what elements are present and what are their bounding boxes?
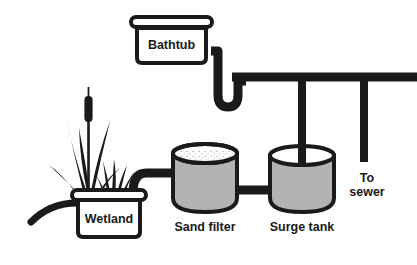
sand-filter-icon <box>173 144 237 212</box>
cattail-plant-icon <box>49 87 120 193</box>
bathtub-label: Bathtub <box>148 38 196 52</box>
sewer-label-line2: sewer <box>349 185 385 199</box>
surge-tank-icon <box>270 146 334 212</box>
surge-tank-label: Surge tank <box>270 220 335 234</box>
p-trap-pipe <box>211 51 246 107</box>
sand-filter-label: Sand filter <box>174 220 235 234</box>
wetland-outlet-pipe <box>31 203 77 222</box>
wetland-label: Wetland <box>85 212 133 226</box>
sewer-label-line1: To <box>360 171 375 185</box>
diagram-canvas: Bathtub <box>0 0 417 265</box>
grass-tuft-icon <box>94 159 137 193</box>
system-diagram: Bathtub <box>0 0 417 265</box>
